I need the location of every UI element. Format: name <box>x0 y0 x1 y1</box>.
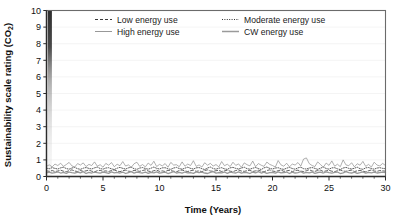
legend-label-2: High energy use <box>117 27 180 37</box>
y-tick-label-10: 10 <box>31 6 41 16</box>
legend-label-1: Moderate energy use <box>244 15 325 25</box>
legend-label-3: CW energy use <box>244 27 303 37</box>
x-axis-title: Time (Years) <box>185 204 241 215</box>
scan-gradient-artifact <box>48 11 52 177</box>
x-tick-label-5: 5 <box>100 183 105 193</box>
y-tick-label-9: 9 <box>36 22 41 32</box>
x-tick-label-15: 15 <box>211 183 221 193</box>
y-tick-label-3: 3 <box>36 122 41 132</box>
x-tick-label-25: 25 <box>324 183 334 193</box>
y-tick-label-7: 7 <box>36 56 41 66</box>
x-tick-label-10: 10 <box>154 183 164 193</box>
y-tick-label-2: 2 <box>36 139 41 149</box>
y-tick-label-5: 5 <box>36 89 41 99</box>
x-tick-label-30: 30 <box>380 183 390 193</box>
y-tick-label-4: 4 <box>36 105 41 115</box>
x-tick-label-0: 0 <box>44 183 49 193</box>
x-tick-label-20: 20 <box>267 183 277 193</box>
chart-figure: 012345678910051015202530 Low energy useH… <box>0 0 398 224</box>
sustainability-rating-line-chart: 012345678910051015202530 Low energy useH… <box>0 0 398 224</box>
y-axis-title: Sustainability scale rating (CO2) <box>2 23 14 167</box>
y-tick-label-1: 1 <box>36 155 41 165</box>
y-axis-title-tail: ) <box>2 23 13 26</box>
y-tick-label-6: 6 <box>36 72 41 82</box>
y-tick-label-0: 0 <box>36 172 41 182</box>
svg-text:Sustainability scale rating (C: Sustainability scale rating (CO2) <box>2 23 14 167</box>
y-axis-title-main: Sustainability scale rating (CO <box>2 30 13 167</box>
legend-label-0: Low energy use <box>117 15 178 25</box>
y-tick-label-8: 8 <box>36 39 41 49</box>
